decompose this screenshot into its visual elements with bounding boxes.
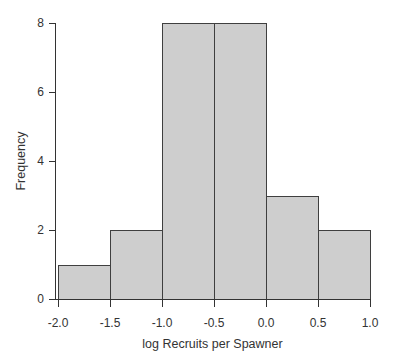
y-tick-label: 2 <box>37 223 44 237</box>
y-tick-label: 4 <box>37 154 44 168</box>
x-tick-label: -1.5 <box>100 316 121 330</box>
histogram-bar <box>163 24 215 300</box>
y-axis-title: Frequency <box>14 131 28 190</box>
histogram-bar <box>215 24 267 300</box>
x-tick-label: 1.0 <box>362 316 379 330</box>
histogram-bar <box>319 231 371 300</box>
x-tick-label: -2.0 <box>48 316 69 330</box>
x-tick-label: 0.0 <box>258 316 275 330</box>
y-tick-label: 8 <box>37 16 44 30</box>
histogram-bar <box>59 266 111 300</box>
x-tick-label: -0.5 <box>204 316 225 330</box>
x-tick-label: -1.0 <box>152 316 173 330</box>
histogram-bar <box>111 231 163 300</box>
histogram-figure: -2.0-1.5-1.0-0.50.00.51.002468 log Recru… <box>0 0 393 363</box>
x-axis-title: log Recruits per Spawner <box>55 337 370 351</box>
y-tick-label: 0 <box>37 292 44 306</box>
y-tick-label: 6 <box>37 85 44 99</box>
x-tick-label: 0.5 <box>310 316 327 330</box>
histogram-bar <box>267 197 319 300</box>
plot-canvas: -2.0-1.5-1.0-0.50.00.51.002468 <box>0 0 393 363</box>
